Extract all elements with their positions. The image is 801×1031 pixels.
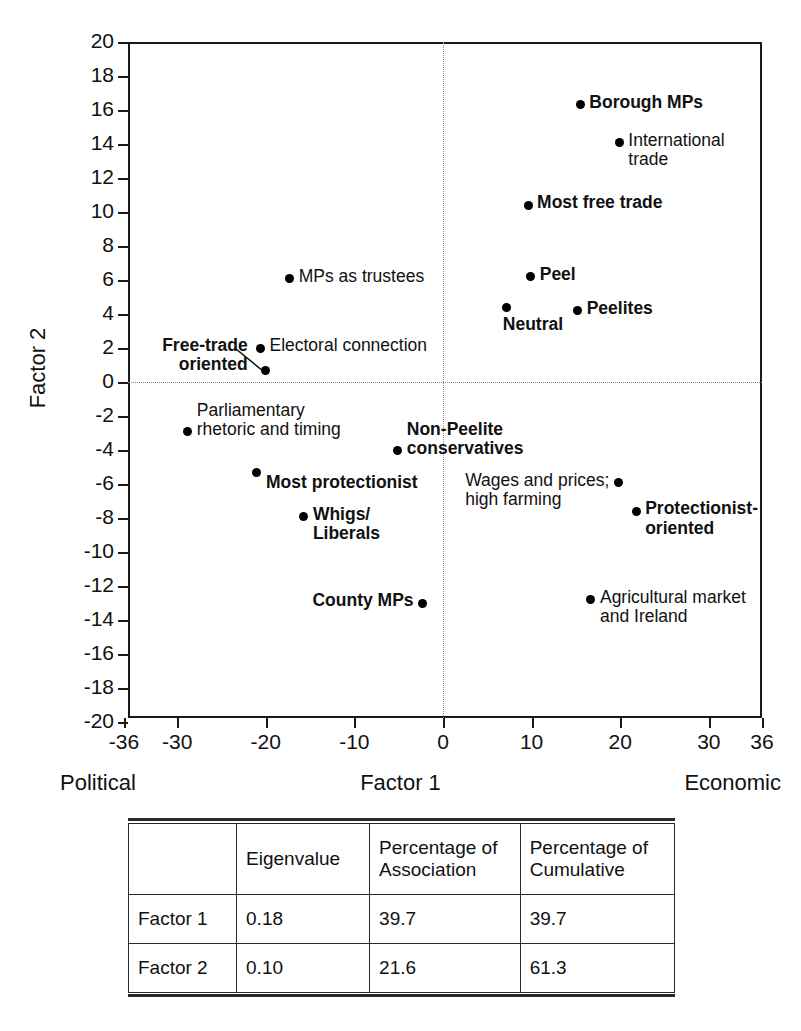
table-header-association-line2: Association <box>379 859 511 881</box>
y-axis-tick <box>118 314 128 316</box>
x-axis-tick-label: 36 <box>732 730 792 754</box>
data-point-label-line: and Ireland <box>600 607 746 627</box>
y-axis-tick-label: -14 <box>60 607 114 631</box>
table-header-association: Percentage of Association <box>370 824 521 895</box>
y-axis-tick <box>118 518 128 520</box>
data-point-label: Wages and prices;high farming <box>465 471 609 510</box>
table-header-cumulative: Percentage of Cumulative <box>520 824 674 895</box>
data-point <box>418 599 427 608</box>
eigenvalue-table: Eigenvalue Percentage of Association Per… <box>128 823 675 993</box>
data-point-label-line: oriented <box>645 519 758 539</box>
data-point-label: Neutral <box>503 315 563 335</box>
y-axis-tick-label: 18 <box>60 63 114 87</box>
x-axis-tick-label: -20 <box>236 730 296 754</box>
y-axis-tick <box>118 416 128 418</box>
data-point-label: Non-Peeliteconservatives <box>407 420 524 459</box>
y-axis-tick <box>118 688 128 690</box>
data-point <box>524 201 533 210</box>
y-axis-tick <box>118 144 128 146</box>
y-axis-tick-label: -18 <box>60 675 114 699</box>
data-point-label: Peel <box>540 265 576 285</box>
data-point-label: Parliamentaryrhetoric and timing <box>197 401 341 440</box>
x-axis-tick-label: 10 <box>502 730 562 754</box>
y-axis-tick <box>118 348 128 350</box>
data-point-label-line: MPs as trustees <box>299 267 424 287</box>
zero-line-vertical <box>443 42 444 718</box>
y-axis-tick <box>118 110 128 112</box>
data-point <box>285 274 294 283</box>
x-axis-tick <box>354 718 356 728</box>
y-axis-tick <box>118 42 128 44</box>
data-point-label-line: Non-Peelite <box>407 420 524 440</box>
y-axis-tick <box>118 178 128 180</box>
x-axis-tick-label: 30 <box>679 730 739 754</box>
data-point-label: Borough MPs <box>589 93 703 113</box>
data-point-label: Agricultural marketand Ireland <box>600 588 746 627</box>
data-point-label-line: Borough MPs <box>589 93 703 113</box>
data-point <box>256 344 265 353</box>
y-axis-tick <box>118 246 128 248</box>
y-axis-title: Factor 2 <box>25 288 51 448</box>
data-point-label-line: Wages and prices; <box>465 471 609 491</box>
table-header-cumulative-line1: Percentage of <box>530 837 665 859</box>
table-cell-factor: Factor 2 <box>129 944 237 993</box>
data-point <box>393 446 402 455</box>
data-point-label-line: Peelites <box>587 299 653 319</box>
table-header-row: Eigenvalue Percentage of Association Per… <box>129 824 675 895</box>
y-axis-tick-label: 0 <box>60 369 114 393</box>
y-axis-tick <box>118 76 128 78</box>
y-axis-tick-label: -12 <box>60 573 114 597</box>
y-axis-tick-label: 20 <box>60 29 114 53</box>
y-axis-tick <box>118 484 128 486</box>
data-point-label: Peelites <box>587 299 653 319</box>
x-axis-tick <box>266 718 268 728</box>
y-axis-tick <box>118 586 128 588</box>
data-point-label-line: Agricultural market <box>600 588 746 608</box>
x-axis-tick <box>709 718 711 728</box>
table-body: Factor 10.1839.739.7Factor 20.1021.661.3 <box>129 895 675 993</box>
zero-line-horizontal <box>128 382 762 383</box>
table-cell-cumulative: 61.3 <box>520 944 674 993</box>
y-axis-tick-label: 10 <box>60 199 114 223</box>
x-axis-tick <box>620 718 622 728</box>
x-axis-right-anchor-label: Economic <box>684 770 781 796</box>
y-axis-tick-label: -10 <box>60 539 114 563</box>
y-axis-tick <box>118 450 128 452</box>
data-point <box>252 468 261 477</box>
data-point-label-line: oriented <box>162 355 248 375</box>
data-point <box>632 507 641 516</box>
data-point <box>615 138 624 147</box>
table-cell-factor: Factor 1 <box>129 895 237 944</box>
y-axis-tick-label: -8 <box>60 505 114 529</box>
x-axis-tick-label: 20 <box>590 730 650 754</box>
y-axis-tick <box>118 552 128 554</box>
y-axis-tick-label: 2 <box>60 335 114 359</box>
data-point-label: County MPs <box>312 591 413 611</box>
x-axis-tick <box>762 718 764 728</box>
x-axis-tick <box>443 718 445 728</box>
x-axis-tick-label: 0 <box>413 730 473 754</box>
data-point-label: Electoral connection <box>269 336 427 356</box>
y-axis-tick-label: 12 <box>60 165 114 189</box>
data-point-label: Free-tradeoriented <box>162 336 248 375</box>
data-point-label-line: rhetoric and timing <box>197 420 341 440</box>
data-point-label-line: high farming <box>465 490 609 510</box>
y-axis-tick-label: -6 <box>60 471 114 495</box>
y-axis-tick <box>118 620 128 622</box>
data-point-label-line: Parliamentary <box>197 401 341 421</box>
factor-analysis-figure: Factor 2 Factor 1 Political Economic 201… <box>0 0 801 1031</box>
data-point-label-line: County MPs <box>312 591 413 611</box>
y-axis-tick-label: 14 <box>60 131 114 155</box>
x-axis-tick-label: -10 <box>324 730 384 754</box>
data-point-label-line: Protectionist- <box>645 499 758 519</box>
table-cell-association: 39.7 <box>370 895 521 944</box>
data-point-label-line: Most free trade <box>537 193 662 213</box>
data-point-label: Most free trade <box>537 193 662 213</box>
x-axis-tick-label: -30 <box>147 730 207 754</box>
data-point <box>614 478 623 487</box>
y-axis-tick-label: -2 <box>60 403 114 427</box>
data-point-label-line: Liberals <box>313 524 380 544</box>
x-axis-left-anchor-label: Political <box>60 770 136 796</box>
y-axis-tick-label: 16 <box>60 97 114 121</box>
y-axis-tick <box>118 212 128 214</box>
